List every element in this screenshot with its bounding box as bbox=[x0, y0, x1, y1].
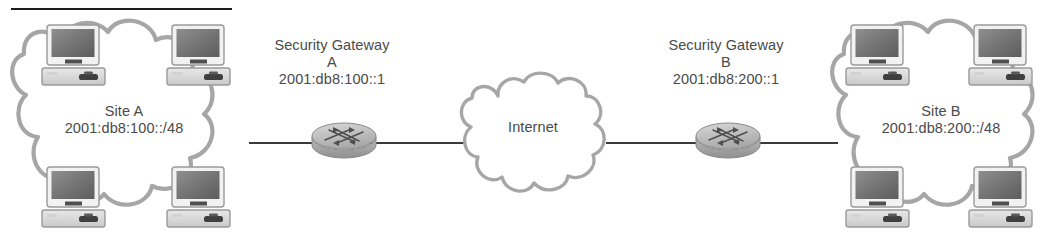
site-b-host-4 bbox=[969, 167, 1032, 227]
gateway-a-router-icon bbox=[312, 123, 376, 158]
site-b-host-1 bbox=[846, 25, 909, 85]
site-b-host-3 bbox=[846, 167, 909, 227]
gateway-b-designator: B bbox=[668, 54, 783, 71]
site-b-label: Site B 2001:db8:200::/48 bbox=[882, 103, 1001, 137]
site-a-host-1 bbox=[42, 25, 105, 85]
site-b-name: Site B bbox=[882, 103, 1001, 120]
site-a-host-4 bbox=[167, 167, 230, 227]
internet-label-text: Internet bbox=[508, 119, 558, 136]
network-diagram: Site A 2001:db8:100::/48 Security Gatewa… bbox=[0, 0, 1064, 249]
site-b-host-2 bbox=[969, 25, 1032, 85]
site-a-name: Site A bbox=[65, 103, 184, 120]
gateway-a-title: Security Gateway bbox=[274, 37, 389, 54]
internet-label: Internet bbox=[508, 119, 558, 136]
gateway-b-title: Security Gateway bbox=[668, 37, 783, 54]
site-b-prefix: 2001:db8:200::/48 bbox=[882, 120, 1001, 137]
gateway-b-address: 2001:db8:200::1 bbox=[668, 71, 783, 88]
gateway-b-router-icon bbox=[696, 123, 760, 158]
site-a-host-3 bbox=[42, 167, 105, 227]
gateway-a-designator: A bbox=[274, 54, 389, 71]
gateway-b-label: Security Gateway B 2001:db8:200::1 bbox=[668, 37, 783, 88]
site-a-host-2 bbox=[167, 25, 230, 85]
gateway-a-label: Security Gateway A 2001:db8:100::1 bbox=[274, 37, 389, 88]
site-a-label: Site A 2001:db8:100::/48 bbox=[65, 103, 184, 137]
gateway-a-address: 2001:db8:100::1 bbox=[274, 71, 389, 88]
site-a-prefix: 2001:db8:100::/48 bbox=[65, 120, 184, 137]
